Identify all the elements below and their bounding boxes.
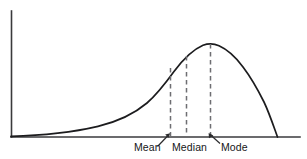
- labels-group: Mean Median Mode: [134, 141, 248, 153]
- distribution-figure: Mean Median Mode: [0, 0, 307, 159]
- curve-group: [11, 44, 278, 137]
- markers-group: [171, 44, 211, 137]
- distribution-curve: [11, 44, 278, 137]
- mean-label: Mean: [134, 141, 161, 153]
- figure-canvas: Mean Median Mode: [0, 0, 307, 159]
- axes-group: [11, 11, 300, 137]
- mode-label: Mode: [221, 141, 248, 153]
- median-label: Median: [172, 141, 207, 153]
